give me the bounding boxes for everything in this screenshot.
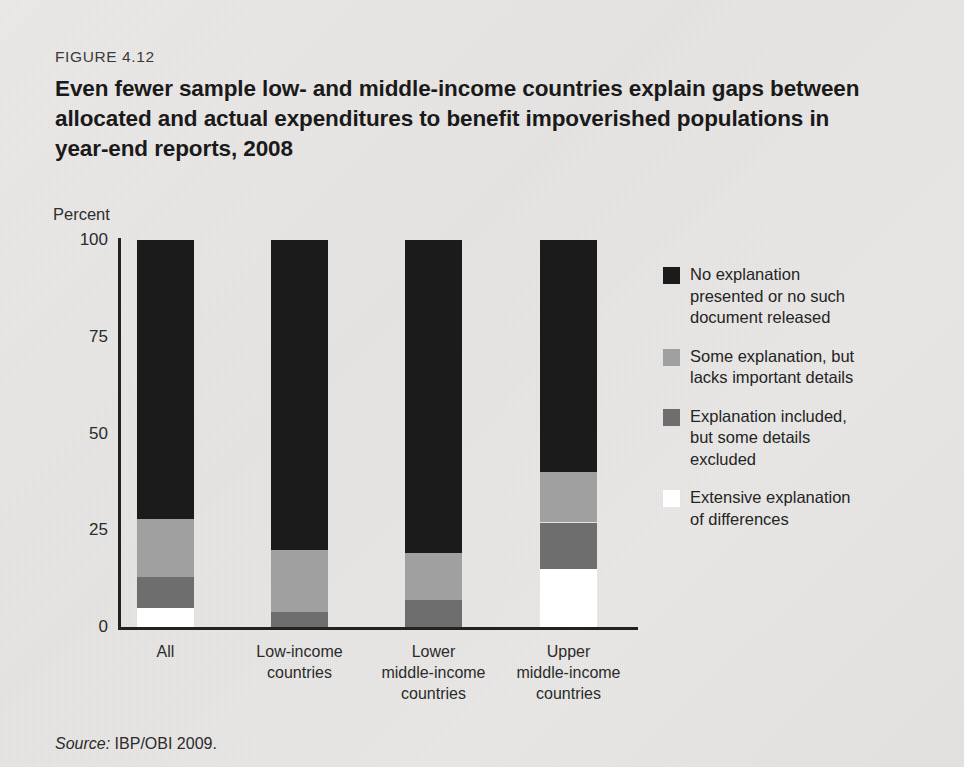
legend-item-label: Explanation included,but some detailsexc… xyxy=(690,406,847,471)
legend-item: Extensive explanationof differences xyxy=(663,487,953,530)
legend-item: Explanation included,but some detailsexc… xyxy=(663,406,953,471)
bar-segment xyxy=(137,519,194,577)
bar-segment xyxy=(540,523,597,569)
source-label: Source: xyxy=(55,735,110,752)
source-note: Source: IBP/OBI 2009. xyxy=(55,735,217,753)
bar-segment xyxy=(271,550,328,612)
legend-label-line: but some details xyxy=(690,427,847,449)
chart-legend: No explanationpresented or no suchdocume… xyxy=(663,264,953,547)
legend-swatch-icon xyxy=(663,490,680,507)
legend-label-line: Explanation included, xyxy=(690,406,847,428)
bar-segment xyxy=(271,612,328,627)
figure-page: FIGURE 4.12 Even fewer sample low- and m… xyxy=(0,0,964,767)
legend-item: Some explanation, butlacks important det… xyxy=(663,346,953,389)
legend-label-line: excluded xyxy=(690,449,847,471)
legend-label-line: lacks important details xyxy=(690,367,854,389)
legend-item-label: No explanationpresented or no suchdocume… xyxy=(690,264,845,329)
x-axis-category-label: Uppermiddle-incomecountries xyxy=(489,641,649,704)
legend-label-line: Extensive explanation xyxy=(690,487,851,509)
legend-item-label: Some explanation, butlacks important det… xyxy=(690,346,854,389)
legend-swatch-icon xyxy=(663,267,680,284)
source-value: IBP/OBI 2009. xyxy=(115,735,217,752)
legend-swatch-icon xyxy=(663,349,680,366)
bar-segment xyxy=(137,608,194,627)
bar-segment xyxy=(405,600,462,627)
bar-segment xyxy=(405,553,462,599)
bar-segment xyxy=(271,240,328,550)
bar-segment xyxy=(540,240,597,472)
bar-segment xyxy=(137,577,194,608)
bar-segment xyxy=(137,240,194,519)
legend-label-line: Some explanation, but xyxy=(690,346,854,368)
legend-item: No explanationpresented or no suchdocume… xyxy=(663,264,953,329)
category-label-line: countries xyxy=(489,683,649,704)
legend-label-line: document released xyxy=(690,307,845,329)
category-label-line: middle-income xyxy=(489,662,649,683)
category-label-line: Upper xyxy=(489,641,649,662)
bar-segment xyxy=(540,569,597,627)
legend-label-line: of differences xyxy=(690,509,851,531)
legend-item-label: Extensive explanationof differences xyxy=(690,487,851,530)
legend-label-line: presented or no such xyxy=(690,286,845,308)
legend-swatch-icon xyxy=(663,409,680,426)
bar-segment xyxy=(540,472,597,522)
bar-segment xyxy=(405,240,462,553)
legend-label-line: No explanation xyxy=(690,264,845,286)
